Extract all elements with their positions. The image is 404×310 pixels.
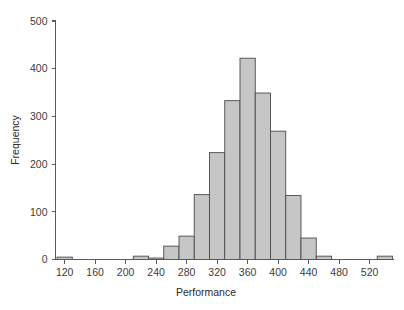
histogram-bar (164, 246, 179, 259)
x-axis-tick-label: 320 (208, 266, 226, 278)
histogram-bar (255, 93, 270, 259)
histogram-figure: 0100200300400500 12016020024028032036040… (0, 0, 404, 310)
histogram-bar (301, 238, 316, 259)
histogram-bar (194, 195, 209, 260)
histogram-bar (240, 58, 255, 259)
histogram-bar (225, 101, 240, 260)
x-axis-tick-label: 200 (117, 266, 135, 278)
histogram-bar (286, 196, 301, 260)
x-axis-tick-label: 440 (300, 266, 318, 278)
histogram-bar (270, 131, 285, 259)
x-axis-tick-label: 400 (269, 266, 287, 278)
histogram-bar (179, 236, 194, 259)
y-axis-tick-label: 200 (30, 158, 48, 170)
y-axis-tick-label: 500 (30, 15, 48, 27)
y-axis-tick-label: 0 (42, 253, 48, 265)
x-axis-tick-label: 360 (239, 266, 257, 278)
x-axis-tick-label: 160 (86, 266, 104, 278)
chart-background (0, 0, 404, 310)
y-axis-tick-label: 400 (30, 62, 48, 74)
x-axis-title: Performance (176, 286, 236, 298)
x-axis-tick-label: 240 (147, 266, 165, 278)
y-axis-tick-label: 300 (30, 110, 48, 122)
y-axis-tick-label: 100 (30, 206, 48, 218)
x-axis-tick-label: 120 (56, 266, 74, 278)
x-axis-tick-label: 480 (330, 266, 348, 278)
histogram-chart-canvas: 0100200300400500 12016020024028032036040… (0, 0, 404, 310)
y-axis-title: Frequency (9, 114, 21, 164)
x-axis-tick-label: 520 (361, 266, 379, 278)
x-axis-tick-label: 280 (178, 266, 196, 278)
histogram-bar (210, 153, 225, 260)
